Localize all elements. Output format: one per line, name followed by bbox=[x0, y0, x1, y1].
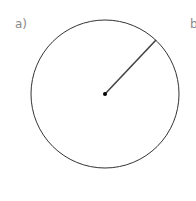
radius-line bbox=[105, 40, 156, 94]
circle-diagram bbox=[0, 0, 196, 201]
center-point bbox=[103, 92, 107, 96]
